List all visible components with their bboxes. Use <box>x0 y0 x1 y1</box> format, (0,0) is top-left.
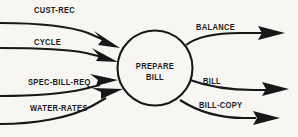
arrow-head-bill-copy <box>253 111 280 125</box>
flow-line-bill <box>190 80 266 90</box>
flow-label-water-rates: WATER-RATES <box>30 103 88 113</box>
flow-label-bill: BILL <box>203 76 221 86</box>
process-label-line2: BILL <box>119 72 191 83</box>
flow-line-cycle <box>0 48 102 57</box>
flow-arrow-cycle <box>0 48 118 62</box>
arrow-head-spec-bill-req <box>90 74 118 86</box>
arrow-head-bill <box>262 82 289 96</box>
flow-label-balance: BALANCE <box>196 22 235 32</box>
process-label-line1: PREPARE <box>119 61 191 72</box>
diagram-canvas: CUST-REC CYCLE SPEC-BILL-REQ WATER-RATES… <box>0 0 298 137</box>
arrow-head-water-rates <box>92 88 123 99</box>
flow-label-bill-copy: BILL-COPY <box>199 100 242 110</box>
arrow-head-balance <box>258 26 285 40</box>
flow-label-cust-rec: CUST-REC <box>34 5 75 15</box>
arrow-head-cust-rec <box>94 31 120 48</box>
flow-line-balance <box>186 33 262 45</box>
flow-label-cycle: CYCLE <box>34 37 61 47</box>
flow-label-spec-bill-req: SPEC-BILL-REQ <box>28 77 91 87</box>
